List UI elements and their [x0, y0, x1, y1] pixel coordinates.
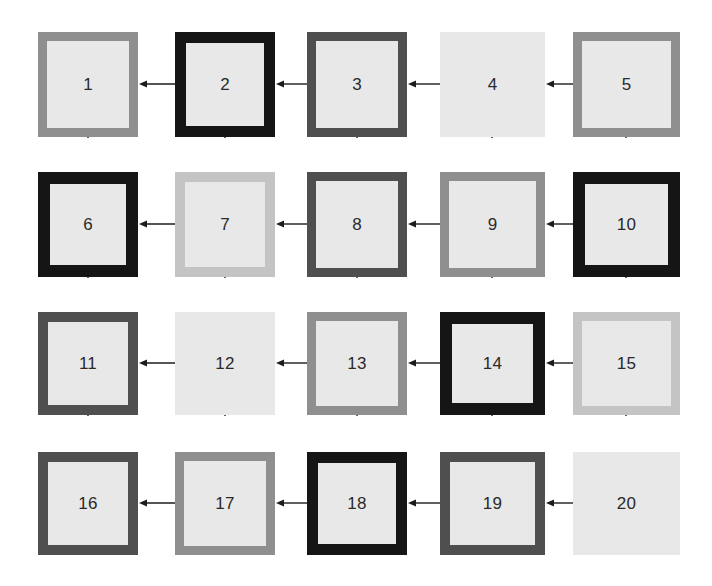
- box-15[interactable]: 15: [573, 312, 680, 415]
- box-2[interactable]: 2: [175, 32, 275, 137]
- arrow-8-to-7: [276, 217, 307, 231]
- box-label: 11: [79, 355, 97, 372]
- arrow-17-to-16: [139, 496, 175, 510]
- arrow-20-to-19: [546, 496, 573, 510]
- arrow-2-to-1: [139, 77, 175, 91]
- box-11[interactable]: 11: [38, 312, 138, 415]
- box-label: 12: [215, 355, 234, 372]
- arrow-4-to-3: [408, 77, 440, 91]
- box-7[interactable]: 7: [175, 172, 275, 277]
- box-16[interactable]: 16: [38, 452, 138, 555]
- box-4[interactable]: 4: [440, 32, 545, 137]
- box-label: 19: [483, 495, 502, 512]
- box-label: 3: [352, 76, 362, 93]
- box-label: 16: [78, 495, 97, 512]
- box-label: 5: [622, 76, 632, 93]
- box-12[interactable]: 12: [175, 312, 275, 415]
- box-label: 17: [215, 495, 234, 512]
- box-10[interactable]: 10: [573, 172, 680, 277]
- box-label: 13: [347, 355, 366, 372]
- arrow-10-to-9: [546, 217, 573, 231]
- box-label: 9: [488, 216, 498, 233]
- box-label: 1: [83, 76, 93, 93]
- box-label: 2: [220, 76, 230, 93]
- box-9[interactable]: 9: [440, 172, 545, 277]
- box-5[interactable]: 5: [573, 32, 680, 137]
- box-label: 18: [347, 495, 366, 512]
- box-8[interactable]: 8: [307, 172, 407, 277]
- arrow-9-to-8: [408, 217, 440, 231]
- box-label: 4: [488, 76, 498, 93]
- box-20[interactable]: 20: [573, 452, 680, 555]
- box-14[interactable]: 14: [440, 312, 545, 415]
- diagram-canvas: 1234567891011121314151617181920: [0, 0, 712, 586]
- box-label: 14: [483, 355, 502, 372]
- arrow-13-to-12: [276, 356, 307, 370]
- arrow-5-to-4: [546, 77, 573, 91]
- box-label: 15: [617, 355, 636, 372]
- box-19[interactable]: 19: [440, 452, 545, 555]
- arrow-14-to-13: [408, 356, 440, 370]
- box-label: 8: [352, 216, 362, 233]
- box-label: 6: [83, 216, 93, 233]
- box-18[interactable]: 18: [307, 452, 407, 555]
- box-3[interactable]: 3: [307, 32, 407, 137]
- box-label: 10: [617, 216, 636, 233]
- box-1[interactable]: 1: [38, 32, 138, 137]
- arrow-19-to-18: [408, 496, 440, 510]
- box-label: 7: [220, 216, 230, 233]
- box-6[interactable]: 6: [38, 172, 138, 277]
- arrow-12-to-11: [139, 356, 175, 370]
- arrow-18-to-17: [276, 496, 307, 510]
- box-label: 20: [617, 495, 636, 512]
- box-13[interactable]: 13: [307, 312, 407, 415]
- arrow-7-to-6: [139, 217, 175, 231]
- box-17[interactable]: 17: [175, 452, 275, 555]
- arrow-3-to-2: [276, 77, 307, 91]
- arrow-15-to-14: [546, 356, 573, 370]
